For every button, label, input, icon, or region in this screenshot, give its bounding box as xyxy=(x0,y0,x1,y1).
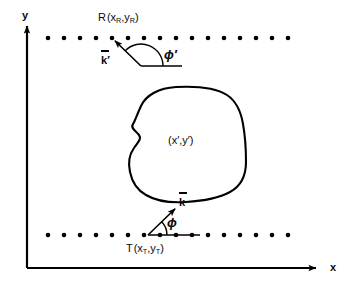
phi-angle-label: ϕ xyxy=(167,216,177,229)
k-scattered-overbar xyxy=(101,50,109,52)
interface-dot xyxy=(254,233,259,238)
receiver-paren-close: ) xyxy=(135,11,139,23)
transmitter-name: T xyxy=(126,242,133,254)
scatterer-paren-close: ) xyxy=(190,134,194,146)
receiver-name: R xyxy=(98,11,106,23)
interface-dot xyxy=(94,36,99,41)
interface-dot xyxy=(190,36,195,41)
interface-dot xyxy=(190,233,195,238)
k-incident-overbar xyxy=(179,192,187,194)
interface-dot xyxy=(286,233,291,238)
k-scattered-prime: ′ xyxy=(107,54,110,66)
interface-dot xyxy=(94,233,99,238)
scattering-geometry-figure: y x R (xR,yR) T (xT,yT) (x′,y′) k k′ ϕ ϕ… xyxy=(0,0,344,286)
k-incident-symbol: k xyxy=(179,196,185,208)
interface-dot xyxy=(222,36,227,41)
interface-dot xyxy=(238,233,243,238)
k-scattered-label: k′ xyxy=(101,55,110,66)
interface-dot xyxy=(62,233,67,238)
scatterer-coordinate-label: (x′,y′) xyxy=(168,135,194,146)
interface-dot xyxy=(110,36,115,41)
transmitter-paren-close: ) xyxy=(160,242,164,254)
interface-dot xyxy=(142,36,147,41)
phi-prime-angle-arc xyxy=(125,44,163,66)
interface-dot xyxy=(142,233,147,238)
x-axis-label: x xyxy=(330,262,336,273)
interface-dot xyxy=(270,36,275,41)
lower-interface-dots xyxy=(46,233,291,238)
phi-prime-mark: ′ xyxy=(174,47,177,62)
interface-dot xyxy=(206,36,211,41)
y-axis-label: y xyxy=(22,10,28,21)
interface-dot xyxy=(270,233,275,238)
k-scattered-vector xyxy=(115,41,141,66)
phi-prime-angle-label: ϕ′ xyxy=(164,48,177,61)
interface-dot xyxy=(158,36,163,41)
receiver-label: R (xR,yR) xyxy=(98,12,139,24)
interface-dot xyxy=(78,36,83,41)
interface-dot xyxy=(238,36,243,41)
phi-prime-symbol: ϕ xyxy=(164,47,174,62)
axis-group xyxy=(27,26,316,268)
interface-dot xyxy=(174,233,179,238)
interface-dot xyxy=(46,36,51,41)
interface-dot xyxy=(286,36,291,41)
interface-dot xyxy=(206,233,211,238)
transmitter-label: T (xT,yT) xyxy=(126,243,164,255)
interface-dot xyxy=(174,36,179,41)
interface-dot xyxy=(78,233,83,238)
interface-dot xyxy=(222,233,227,238)
upper-interface-dots xyxy=(46,36,291,41)
interface-dot xyxy=(158,233,163,238)
interface-dot xyxy=(254,36,259,41)
interface-dot xyxy=(46,233,51,238)
interface-dot xyxy=(62,36,67,41)
interface-dot xyxy=(126,233,131,238)
interface-dot xyxy=(126,36,131,41)
interface-dot xyxy=(110,233,115,238)
k-incident-label: k xyxy=(179,197,185,208)
